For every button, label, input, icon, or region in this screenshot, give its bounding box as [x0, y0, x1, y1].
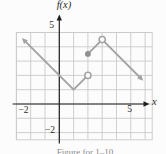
x-axis-arrow-icon — [144, 101, 150, 106]
y-axis-arrow-icon — [57, 15, 62, 21]
x-tick-label-neg2: −2 — [14, 106, 33, 115]
y-axis-title: f(x) — [49, 0, 79, 10]
open-circle-marker — [99, 37, 105, 43]
y-tick-label-5: 5 — [40, 21, 54, 30]
plot-canvas — [0, 0, 166, 154]
function-graph-figure: f(x) x 5 −2 −2 5 Figure for 1–10 — [0, 0, 166, 154]
figure-caption: Figure for 1–10 — [25, 147, 145, 154]
filled-dot-marker — [85, 51, 91, 57]
function-curve-right-piece — [88, 40, 142, 79]
grid-border — [16, 33, 152, 140]
x-tick-label-5: 5 — [123, 105, 136, 114]
open-circle-marker — [85, 72, 91, 78]
y-tick-label-neg2: −2 — [38, 126, 55, 135]
x-axis-title: x — [152, 97, 157, 107]
